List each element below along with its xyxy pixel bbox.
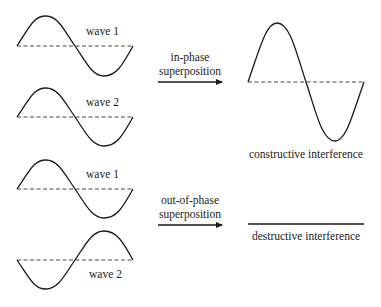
destructive-result: destructive interference: [248, 224, 364, 242]
out-of-phase-wave-1: wave 1: [17, 160, 133, 218]
wave-1-label: wave 1: [86, 168, 119, 180]
destructive-label: destructive interference: [252, 230, 360, 242]
arrow-label-line-1: in-phase: [171, 51, 210, 64]
out-of-phase-wave-2: wave 2: [17, 231, 133, 289]
arrow-label-line-2: superposition: [159, 65, 221, 78]
constructive-result: constructive interference: [248, 23, 364, 160]
in-phase-wave-1: wave 1: [17, 16, 133, 76]
wave-2-label: wave 2: [86, 96, 119, 108]
out-of-phase-arrow: out-of-phase superposition: [158, 194, 222, 225]
wave-1-label: wave 1: [86, 25, 119, 37]
constructive-label: constructive interference: [249, 148, 363, 160]
arrow-label-line-1: out-of-phase: [161, 194, 219, 207]
arrow-label-line-2: superposition: [159, 208, 221, 221]
in-phase-wave-2: wave 2: [17, 88, 133, 146]
wave-superposition-diagram: wave 1 wave 2 in-phase superposition con…: [0, 0, 381, 307]
wave-2-label: wave 2: [89, 268, 122, 280]
in-phase-arrow: in-phase superposition: [158, 51, 222, 82]
